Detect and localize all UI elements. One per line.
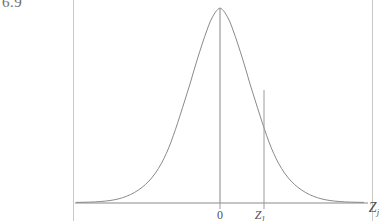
x-tick-label-zero: 0 xyxy=(217,208,223,221)
normal-distribution-plot: 0 Z1 Zj xyxy=(0,0,388,221)
x-tick-label-critical: Z1 xyxy=(255,208,266,221)
figure-container: 6.9 0 Z1 Zj xyxy=(0,0,388,221)
x-axis-name-label: Zj xyxy=(369,200,380,217)
